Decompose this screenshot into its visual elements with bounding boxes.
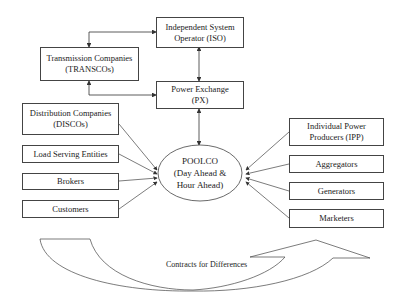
brokers-label: Brokers [57,176,84,187]
px-box: Power Exchange (PX) [156,81,244,109]
poolco-label: POOLCO (Day Ahead & Hour Ahead) [158,155,242,191]
lse-label: Load Serving Entities [33,149,107,160]
transco-iso-arrow [89,32,156,47]
ipp-line1: Individual Power [307,121,366,132]
marketers-box: Marketers [289,209,384,228]
ipp-line2: Producers (IPP) [307,132,366,143]
left-connectors [119,124,157,209]
poolco-line1: POOLCO [158,155,242,167]
px-line2: (PX) [171,95,228,106]
contracts-for-differences-label: Contracts for Differences [166,260,247,269]
lse-box: Load Serving Entities [22,145,119,163]
px-line1: Power Exchange [171,84,228,95]
brokers-box: Brokers [22,173,119,190]
customers-box: Customers [22,200,119,218]
transcos-box: Transmission Companies (TRANSCOs) [40,47,139,81]
customers-label: Customers [52,204,88,215]
iso-line2: Operator (ISO) [165,33,234,44]
poolco-line2: (Day Ahead & [158,167,242,179]
discos-box: Distribution Companies (DISCOs) [22,103,119,135]
poolco-line3: Hour Ahead) [158,179,242,191]
ipp-box: Individual Power Producers (IPP) [289,118,384,146]
marketers-label: Marketers [319,213,353,224]
aggregators-label: Aggregators [315,159,357,170]
generators-box: Generators [289,182,384,200]
transcos-line1: Transmission Companies [47,53,133,64]
iso-line1: Independent System [165,22,234,33]
iso-box: Independent System Operator (ISO) [156,17,244,48]
discos-line1: Distribution Companies [30,108,111,119]
transcos-line2: (TRANSCOs) [47,64,133,75]
aggregators-box: Aggregators [289,155,384,173]
transco-px-arrow [89,81,156,95]
discos-line2: (DISCOs) [30,119,111,130]
generators-label: Generators [318,186,355,197]
right-connectors [246,132,289,218]
